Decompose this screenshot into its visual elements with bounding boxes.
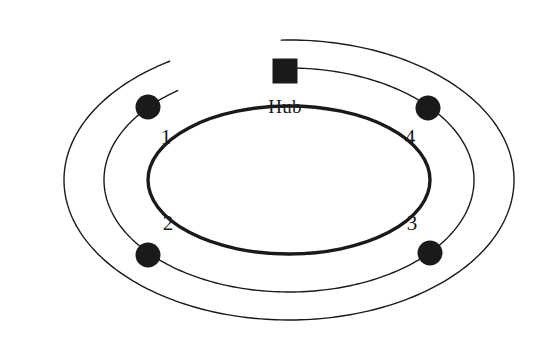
diagram-canvas: Hub 1234 xyxy=(0,0,540,355)
node-circle-4[interactable] xyxy=(416,96,441,121)
node-label-3: 3 xyxy=(407,213,418,234)
network-topology-svg xyxy=(0,0,540,355)
node-circle-1[interactable] xyxy=(136,95,161,120)
node-circle-3[interactable] xyxy=(418,241,443,266)
hub-square-icon[interactable] xyxy=(273,59,298,84)
node-circle-group xyxy=(136,95,443,268)
node-label-2: 2 xyxy=(163,213,174,234)
node-label-4: 4 xyxy=(405,127,416,148)
ring-network-ellipse xyxy=(148,106,430,254)
node-label-1: 1 xyxy=(161,127,172,148)
hub-label: Hub xyxy=(268,97,301,116)
node-circle-2[interactable] xyxy=(136,243,161,268)
